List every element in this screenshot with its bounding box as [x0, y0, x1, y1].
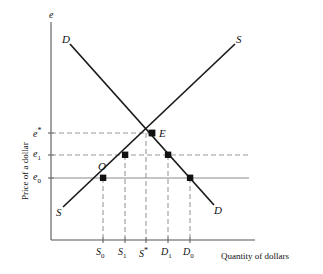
horizontal-guides	[51, 133, 249, 178]
marker-observed-O	[100, 175, 106, 181]
x-tick-label-s-zero: S0	[96, 247, 105, 260]
x-tick-label-s-one: S1	[118, 247, 127, 260]
demand-curve-label-top-left: D	[62, 34, 70, 45]
supply-curve-label-bottom-left: S	[56, 207, 62, 218]
vertical-guides	[103, 133, 190, 238]
demand-curve-label-bottom-right: D	[214, 205, 222, 216]
y-tick-label-e-zero: e0	[33, 172, 41, 185]
marker-demand-at-e-one	[165, 152, 171, 158]
x-tick-label-d-one: D1	[161, 247, 172, 260]
y-tick-label-e-star: e*	[33, 127, 41, 139]
supply-curve-label-top-right: S	[236, 34, 242, 45]
equilibrium-point-label: E	[159, 128, 166, 139]
observed-point-label: O	[98, 161, 106, 172]
y-axis-title: Price of a dollar	[20, 142, 30, 200]
x-tick-label-s-star: S*	[139, 247, 148, 259]
marker-demand-at-e-zero	[187, 175, 193, 181]
y-tick-label-e-one: e1	[33, 149, 41, 162]
supply-demand-figure: e e* e1 e0 S0 S1 S* D1 D0 D S S D E O Pr…	[0, 0, 323, 274]
y-axis-top-symbol: e	[49, 10, 53, 20]
marker-supply-at-e-one	[122, 152, 128, 158]
supply-curve	[63, 44, 235, 207]
marker-equilibrium-E	[149, 130, 156, 137]
x-tick-label-d-zero: D0	[183, 247, 194, 260]
x-axis-title: Quantity of dollars	[221, 251, 289, 261]
